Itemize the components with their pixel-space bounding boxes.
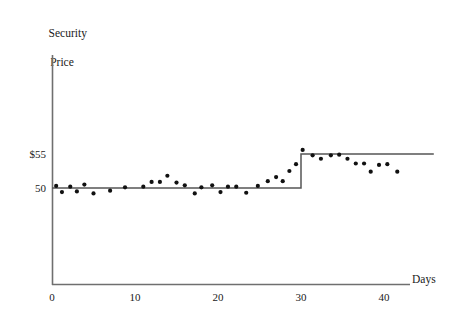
chart-figure: Security Price Days 010203040 50$55: [0, 0, 464, 324]
data-point: [329, 153, 333, 157]
x-tick-label: 30: [296, 291, 307, 303]
data-point: [274, 175, 278, 179]
data-point: [150, 180, 154, 184]
data-point: [210, 183, 214, 187]
data-point: [193, 191, 197, 195]
data-point: [183, 183, 187, 187]
data-point: [244, 191, 248, 195]
y-tick-label: $55: [8, 148, 46, 160]
data-point: [91, 191, 95, 195]
data-point: [226, 185, 230, 189]
step-path: [52, 154, 434, 188]
x-tick-label: 20: [213, 291, 224, 303]
data-point: [68, 185, 72, 189]
data-point: [385, 162, 389, 166]
data-point: [337, 153, 341, 157]
data-point: [54, 184, 58, 188]
data-point: [218, 190, 222, 194]
data-point: [294, 162, 298, 166]
plot-area: [0, 0, 464, 324]
data-point: [75, 189, 79, 193]
data-point: [345, 157, 349, 161]
y-tick-label: 50: [8, 182, 46, 194]
data-point: [174, 180, 178, 184]
data-point: [369, 170, 373, 174]
data-point: [234, 185, 238, 189]
data-point: [60, 190, 64, 194]
data-point: [199, 185, 203, 189]
data-point: [158, 180, 162, 184]
data-point: [281, 179, 285, 183]
data-point: [108, 189, 112, 193]
x-tick-label: 0: [49, 291, 55, 303]
data-point: [301, 148, 305, 152]
data-point: [354, 161, 358, 165]
data-point: [256, 184, 260, 188]
data-point: [319, 157, 323, 161]
data-point: [395, 170, 399, 174]
data-point: [362, 161, 366, 165]
data-point: [377, 163, 381, 167]
data-point: [266, 179, 270, 183]
data-point: [141, 185, 145, 189]
data-point: [311, 153, 315, 157]
data-point: [82, 183, 86, 187]
data-point: [165, 174, 169, 178]
x-tick-label: 10: [130, 291, 141, 303]
step-function-line: [52, 154, 434, 188]
axis-lines: [52, 55, 410, 285]
x-tick-label: 40: [379, 291, 390, 303]
data-point: [287, 169, 291, 173]
data-point: [123, 185, 127, 189]
